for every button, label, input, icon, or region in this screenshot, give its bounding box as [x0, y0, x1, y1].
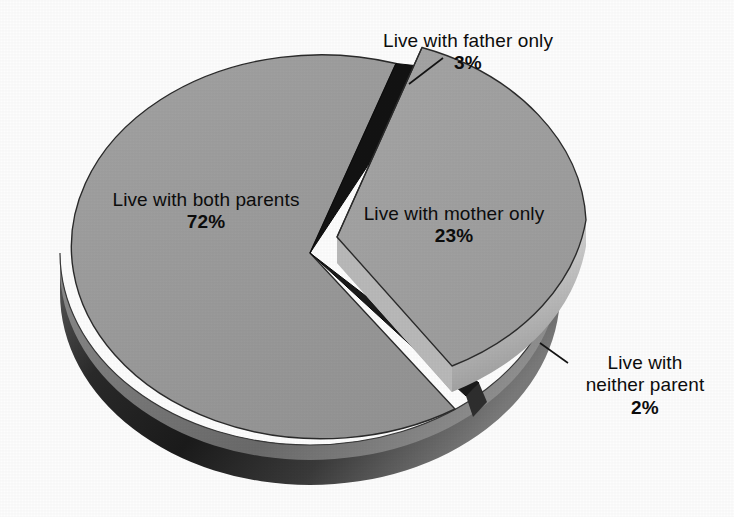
label-neither-parent-value: 2%: [570, 397, 720, 419]
label-neither-parent-line2: neither parent: [570, 374, 720, 396]
label-both-parents: Live with both parents 72%: [86, 189, 326, 234]
label-neither-parent: Live with neither parent 2%: [570, 352, 720, 419]
label-mother-only-text: Live with mother only: [343, 203, 565, 225]
pie-chart-graphic: [0, 0, 734, 517]
label-mother-only-value: 23%: [343, 225, 565, 247]
label-both-parents-text: Live with both parents: [86, 189, 326, 211]
label-both-parents-value: 72%: [86, 211, 326, 233]
label-mother-only: Live with mother only 23%: [343, 203, 565, 248]
label-father-only: Live with father only 3%: [356, 30, 580, 75]
label-father-only-text: Live with father only: [356, 30, 580, 52]
pie-chart-page: Live with both parents 72% Live with mot…: [0, 0, 734, 517]
label-neither-parent-line1: Live with: [570, 352, 720, 374]
label-father-only-value: 3%: [356, 52, 580, 74]
